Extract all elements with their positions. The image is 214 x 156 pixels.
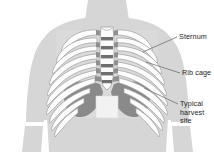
sternum-segment-1	[101, 37, 113, 40]
right-forearm-shape	[172, 126, 193, 152]
label-harvest-line-3: site	[180, 117, 204, 126]
label-rib-cage: Rib cage	[182, 69, 211, 78]
anatomy-figure: Sternum Rib cage Typical harvest site e	[0, 0, 214, 156]
sternum	[100, 27, 114, 90]
label-sternum: Sternum	[179, 33, 207, 42]
label-sternum-text: Sternum	[179, 32, 207, 41]
clipped-edge-text-line: e	[0, 80, 2, 88]
sternum-segment-2	[101, 46, 113, 49]
xiphoid-process	[102, 80, 112, 83]
sternum-segment-5	[101, 72, 113, 75]
abdominal-gap	[96, 96, 118, 118]
clipped-edge-text: e	[0, 80, 2, 88]
left-forearm-shape	[22, 126, 43, 152]
sternum-segment-4	[101, 64, 113, 67]
sternum-segment-3	[101, 55, 113, 58]
label-typical-harvest-site: Typical harvest site	[180, 100, 204, 126]
label-rib-cage-text: Rib cage	[182, 68, 211, 77]
neck-shape	[85, 0, 129, 20]
anatomy-illustration	[0, 0, 214, 156]
